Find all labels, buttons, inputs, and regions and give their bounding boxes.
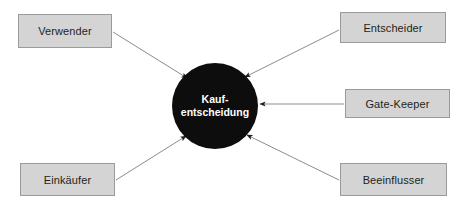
edge-einkaeufer-to-hub [116, 136, 186, 180]
node-einkaeufer-label: Einkäufer [44, 174, 91, 186]
node-gate-keeper[interactable]: Gate-Keeper [345, 89, 450, 118]
node-gate-keeper-label: Gate-Keeper [365, 98, 429, 110]
hub-kaufentscheidung[interactable]: Kauf- entscheidung [172, 63, 258, 149]
diagram-canvas: Verwender Entscheider Gate-Keeper Beeinf… [0, 0, 456, 211]
edge-verwender-to-hub [113, 32, 187, 78]
edge-entscheider-to-hub [245, 30, 339, 77]
node-beeinflusser-label: Beeinflusser [363, 174, 425, 186]
node-beeinflusser[interactable]: Beeinflusser [340, 163, 447, 196]
node-verwender-label: Verwender [38, 25, 92, 37]
edge-beeinflusser-to-hub [247, 135, 339, 180]
node-einkaeufer[interactable]: Einkäufer [20, 163, 115, 196]
node-entscheider[interactable]: Entscheider [340, 12, 446, 43]
node-entscheider-label: Entscheider [363, 22, 422, 34]
hub-label-line-2: entscheidung [181, 106, 249, 119]
node-verwender[interactable]: Verwender [18, 14, 112, 48]
hub-label-line-1: Kauf- [202, 93, 229, 106]
